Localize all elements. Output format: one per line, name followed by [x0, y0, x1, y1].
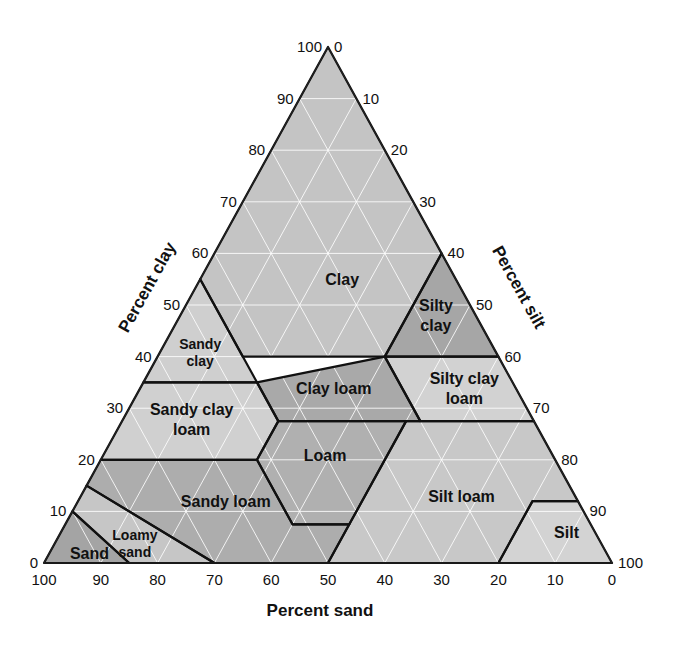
region-label-loamy-sand: Loamy	[112, 527, 157, 543]
region-label-clay: Clay	[325, 271, 359, 288]
sand-tick-80: 80	[149, 571, 166, 588]
clay-axis-title: Percent clay	[115, 238, 180, 335]
sand-tick-0: 0	[608, 571, 616, 588]
sand-tick-70: 70	[206, 571, 223, 588]
clay-tick-70: 70	[220, 193, 237, 210]
region-label-sandy-clay-loam: loam	[173, 421, 210, 438]
silt-tick-60: 60	[504, 348, 521, 365]
region-label-sand: Sand	[70, 545, 109, 562]
silt-tick-80: 80	[561, 451, 578, 468]
silt-tick-30: 30	[419, 193, 436, 210]
clay-tick-40: 40	[135, 348, 152, 365]
region-label-silty-clay-loam: Silty clay	[430, 370, 499, 387]
clay-tick-10: 10	[50, 502, 67, 519]
sand-tick-20: 20	[490, 571, 507, 588]
silt-tick-20: 20	[391, 141, 408, 158]
clay-tick-50: 50	[163, 296, 180, 313]
region-label-silt: Silt	[554, 524, 580, 541]
sand-tick-50: 50	[320, 571, 337, 588]
region-label-loamy-sand: sand	[119, 544, 152, 560]
clay-tick-100: 100	[297, 38, 322, 55]
clay-tick-90: 90	[277, 90, 294, 107]
sand-tick-30: 30	[433, 571, 450, 588]
region-label-sandy-clay: clay	[187, 353, 214, 369]
region-label-silty-clay-loam: loam	[446, 390, 483, 407]
region-label-silty-clay: clay	[420, 317, 451, 334]
clay-tick-30: 30	[107, 399, 124, 416]
clay-tick-60: 60	[192, 244, 209, 261]
silt-tick-50: 50	[476, 296, 493, 313]
region-label-sandy-clay-loam: Sandy clay	[150, 401, 234, 418]
clay-tick-20: 20	[78, 451, 95, 468]
silt-tick-100: 100	[618, 554, 643, 571]
silt-tick-40: 40	[448, 244, 465, 261]
region-label-silty-clay: Silty	[419, 297, 453, 314]
region-label-loam: Loam	[304, 447, 347, 464]
region-label-sandy-loam: Sandy loam	[181, 493, 271, 510]
soil-texture-triangle: ClaySandyclaySiltyclaySandy clayloamClay…	[0, 0, 679, 648]
region-label-clay-loam: Clay loam	[296, 380, 372, 397]
silt-tick-10: 10	[362, 90, 379, 107]
sand-tick-10: 10	[547, 571, 564, 588]
clay-tick-80: 80	[249, 141, 266, 158]
region-label-sandy-clay: Sandy	[179, 336, 221, 352]
clay-tick-0: 0	[30, 554, 38, 571]
sand-axis-title: Percent sand	[267, 601, 374, 620]
silt-tick-90: 90	[590, 502, 607, 519]
region-label-silt-loam: Silt loam	[428, 488, 495, 505]
silt-tick-0: 0	[334, 38, 342, 55]
sand-tick-90: 90	[92, 571, 109, 588]
sand-tick-40: 40	[376, 571, 393, 588]
sand-tick-100: 100	[31, 571, 56, 588]
silt-tick-70: 70	[533, 399, 550, 416]
sand-tick-60: 60	[263, 571, 280, 588]
silt-axis-title: Percent silt	[488, 243, 549, 333]
